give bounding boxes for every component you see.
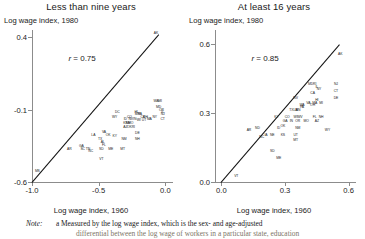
y-tick-right: [211, 44, 215, 45]
data-point-label: UT: [142, 119, 146, 123]
data-point-label: AR: [67, 148, 72, 152]
y-tick-label-right: 0.6: [199, 39, 210, 48]
y-tick-label-right: 0.3: [199, 108, 210, 117]
correlation-annotation-left: r = 0.75: [68, 54, 95, 63]
x-axis-line-left: [32, 182, 173, 183]
data-point-label: ME: [276, 157, 281, 161]
x-axis-title-right: Log wage index, 1960: [183, 206, 365, 215]
figure-root: Less than nine years Log wage index, 198…: [0, 0, 365, 239]
data-point-label: DE: [135, 132, 140, 136]
reference-line-right: [221, 44, 341, 183]
data-point-label: AZ: [315, 120, 319, 124]
data-point-label: DE: [334, 97, 339, 101]
chart-panel-right: At least 16 years Log wage index, 1980 0…: [183, 0, 365, 216]
data-point-label: RI: [132, 127, 135, 131]
data-point-label: CT: [160, 118, 164, 122]
x-tick-label-right: 0.3: [280, 186, 291, 195]
data-point-label: NM: [295, 127, 300, 131]
data-point-label: MA: [147, 118, 152, 122]
data-point-label: ID: [277, 127, 280, 131]
data-point-label: LA: [294, 109, 298, 113]
data-point-label: VT: [234, 176, 238, 180]
data-point-label: OK: [281, 125, 286, 129]
y-axis-title-left: Log wage index, 1980: [4, 16, 78, 25]
data-point-label: IN: [290, 120, 293, 124]
data-point-label: CT: [334, 90, 338, 94]
panel-title-right: At least 16 years: [183, 1, 365, 12]
data-point-label: VT: [99, 158, 103, 162]
data-point-label: NV: [293, 97, 298, 101]
data-point-label: MO: [304, 120, 309, 124]
data-point-label: NC: [88, 150, 93, 154]
data-point-label: WY: [325, 130, 330, 134]
panel-title-left: Less than nine years: [0, 1, 182, 12]
x-tick-label-left: -1.0: [25, 186, 38, 195]
note-label: Note:: [26, 219, 42, 229]
data-point-label: DC: [115, 111, 120, 115]
data-point-label: SC: [80, 148, 85, 152]
y-tick-label-left: 0.4: [16, 33, 27, 42]
data-point-label: WY: [112, 117, 117, 121]
plot-area-right: 0.60.30.00.00.30.6AKNJCTDEMDRIILNYCANVVA…: [215, 30, 355, 182]
chart-panel-left: Less than nine years Log wage index, 198…: [0, 0, 182, 216]
data-point-label: SD: [99, 148, 104, 152]
data-point-label: NH: [135, 138, 140, 142]
data-point-label: OR: [295, 120, 300, 124]
x-axis-title-left: Log wage index, 1960: [0, 206, 182, 215]
data-point-label: NY: [317, 88, 322, 92]
correlation-annotation-right: r = 0.85: [251, 54, 278, 63]
x-tick-label-left: 0.0: [160, 186, 171, 195]
data-point-label: ND: [255, 127, 260, 131]
data-point-label: WI: [137, 119, 141, 123]
data-point-label: PA: [300, 107, 304, 111]
data-point-label: IA: [264, 134, 267, 138]
data-point-label: NE: [270, 134, 275, 138]
data-point-label: NY: [152, 117, 157, 121]
y-tick-right: [211, 113, 215, 114]
data-point-label: AK: [338, 54, 342, 58]
data-point-label: AR: [247, 130, 252, 134]
y-tick-right: [211, 182, 215, 183]
data-point-label: OK: [106, 134, 111, 138]
data-point-label: KY: [112, 135, 116, 139]
data-point-label: MT: [120, 148, 125, 152]
note-line-2: differential between the log wage of wor…: [76, 229, 365, 239]
data-point-label: NH: [319, 116, 324, 120]
y-axis-line-left: [32, 30, 33, 182]
data-point-label: MS: [35, 170, 40, 174]
data-point-label: NJ: [334, 83, 338, 87]
y-axis-line-right: [215, 30, 216, 182]
y-tick-left: [28, 37, 32, 38]
note-marker: a: [56, 219, 59, 229]
data-point-label: LA: [91, 134, 95, 138]
x-tick-label-left: -0.5: [92, 186, 105, 195]
data-point-label: NM: [121, 138, 126, 142]
data-point-label: KS: [281, 134, 285, 138]
data-point-label: OH: [310, 104, 315, 108]
data-point-label: SD: [270, 150, 275, 154]
figure-note: Note: a Measured by the log wage index, …: [0, 219, 365, 239]
data-point-label: MI: [158, 101, 162, 105]
data-point-label: MI: [319, 102, 323, 106]
data-point-label: HI: [315, 100, 318, 104]
y-tick-label-left: -0.1: [14, 105, 27, 114]
data-point-label: ME: [108, 148, 113, 152]
note-line-1: Measured by the log wage index, which is…: [61, 219, 361, 229]
data-point-label: MT: [293, 139, 298, 143]
data-point-label: CA: [310, 93, 315, 97]
data-point-label: NC: [259, 136, 264, 140]
y-tick-label-right: 0.0: [199, 178, 210, 187]
x-tick-label-right: 0.0: [216, 186, 227, 195]
data-point-label: KY: [274, 116, 278, 120]
plot-area-left: 0.4-0.1-0.6-1.0-0.50.0AKWAMIMDORILNJCTNY…: [32, 30, 172, 182]
y-axis-title-right: Log wage index, 1980: [189, 16, 263, 25]
x-tick-label-right: 0.6: [343, 186, 354, 195]
data-point-label: AK: [154, 33, 158, 37]
y-tick-left: [28, 110, 32, 111]
